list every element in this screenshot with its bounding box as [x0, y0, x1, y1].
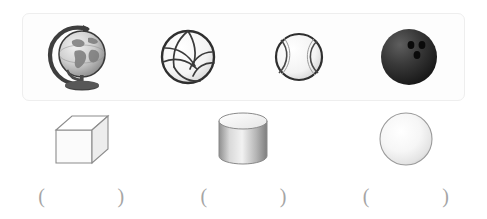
- solid-item-cube: [0, 110, 162, 172]
- answer-blank-cube[interactable]: ( ): [38, 186, 124, 206]
- solids-row: [0, 110, 487, 172]
- paren-close: ): [442, 186, 449, 206]
- solid-item-sphere: [325, 110, 487, 172]
- paren-open: (: [38, 186, 45, 206]
- globe-icon: [42, 20, 114, 94]
- sphere-icon: [375, 108, 437, 170]
- tennis-ball-icon: [271, 29, 327, 85]
- object-item-tennis-ball: [244, 14, 354, 100]
- cube-icon: [44, 108, 118, 170]
- object-item-bowling-ball: [354, 14, 464, 100]
- objects-row: [23, 14, 464, 100]
- object-item-globe: [23, 14, 133, 100]
- paren-close: ): [280, 186, 287, 206]
- answers-row: ( ) ( ) ( ): [0, 180, 487, 212]
- solid-item-cylinder: [162, 110, 324, 172]
- answer-cell-3: ( ): [325, 186, 487, 206]
- answer-cell-2: ( ): [162, 186, 324, 206]
- answer-blank-cylinder[interactable]: ( ): [200, 186, 286, 206]
- cylinder-icon: [211, 108, 275, 170]
- answer-blank-sphere[interactable]: ( ): [363, 186, 449, 206]
- paren-open: (: [200, 186, 207, 206]
- answer-cell-1: ( ): [0, 186, 162, 206]
- objects-panel: [22, 13, 465, 101]
- paren-open: (: [363, 186, 370, 206]
- bowling-ball-icon: [377, 25, 441, 89]
- paren-close: ): [117, 186, 124, 206]
- object-item-volleyball: [133, 14, 243, 100]
- volleyball-icon: [157, 26, 219, 88]
